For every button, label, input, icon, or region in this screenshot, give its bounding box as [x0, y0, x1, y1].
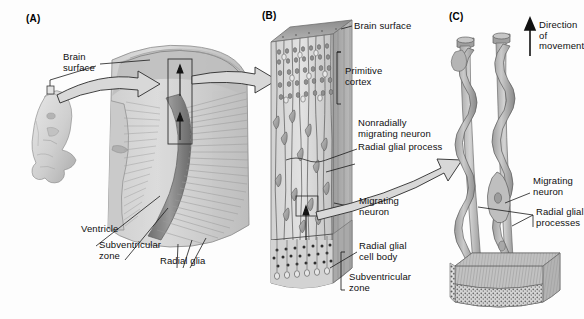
label-radial-glial-processes: Radial glial processes [536, 207, 584, 228]
label-subventricular-zone-a: Subventricular zone [99, 240, 161, 261]
label-subventricular-zone-b: Subventricular zone [349, 272, 411, 293]
label-migrating-neuron-c: Migrating neuron [533, 176, 573, 197]
panel-letter-b: (B) [262, 10, 276, 21]
embryo-illustration [32, 86, 76, 183]
label-brain-surface-a: Brain surface [63, 52, 95, 73]
label-direction-of-movement: Direction of movement [539, 20, 584, 52]
figure-artwork [0, 0, 584, 319]
panel-letter-a: (A) [26, 13, 40, 24]
label-radial-glial-cell-body: Radial glial cell body [359, 241, 407, 262]
panel-b-artwork [268, 20, 357, 295]
label-radial-glia: Radial glia [160, 256, 205, 267]
label-radial-glial-process: Radial glial process [358, 142, 442, 153]
label-nonradially-migrating-neuron: Nonradially migrating neuron [358, 118, 431, 139]
panel-letter-c: (C) [449, 11, 463, 22]
label-primitive-cortex: Primitive cortex [345, 66, 382, 87]
panel-c-artwork [450, 18, 560, 307]
label-migrating-neuron-b: Migrating neuron [359, 196, 399, 217]
subventricular-base-block [450, 253, 560, 307]
neuron-glia-pair-right [487, 33, 515, 277]
figure-canvas: (A) (B) (C) Brain surface Ventricle Subv… [0, 0, 584, 319]
direction-of-movement-arrow [525, 18, 535, 56]
neuron-glia-pair-left [451, 37, 482, 277]
label-brain-surface-b: Brain surface [354, 21, 411, 32]
subventricular-zone-b [268, 236, 338, 295]
label-ventricle: Ventricle [81, 224, 118, 235]
